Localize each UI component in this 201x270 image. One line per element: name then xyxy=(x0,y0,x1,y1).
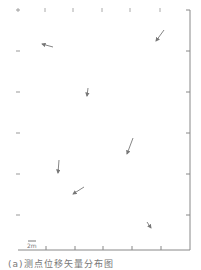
displacement-arrow xyxy=(127,138,133,154)
displacement-arrow xyxy=(87,88,88,96)
displacement-arrows xyxy=(42,30,164,228)
displacement-arrow xyxy=(156,30,164,41)
vector-field-figure: 2m xyxy=(0,0,201,255)
displacement-arrow xyxy=(42,44,53,47)
figure-caption: (a)测点位移矢量分布图 xyxy=(8,257,114,270)
displacement-arrow xyxy=(73,187,84,194)
scale-label: 2m xyxy=(27,242,37,249)
scale-bar: 2m xyxy=(27,241,37,249)
displacement-arrow xyxy=(58,160,59,173)
displacement-arrow xyxy=(147,222,151,228)
